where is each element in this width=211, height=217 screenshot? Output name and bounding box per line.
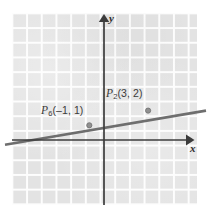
- x-axis-label: x: [190, 142, 196, 154]
- coordinate-plane-figure: y x P6(–1, 1) P2(3, 2): [0, 0, 211, 217]
- plot-overlay: [0, 0, 211, 217]
- y-axis-label: y: [109, 12, 114, 24]
- point-marker-p2: [146, 108, 151, 113]
- point-label-p1: P6(–1, 1): [41, 104, 83, 118]
- point-label-p2: P2(3, 2): [106, 87, 143, 101]
- y-axis-arrowhead: [99, 14, 109, 22]
- point-label-p2-coords: (3, 2): [117, 87, 142, 99]
- point-marker-p1: [87, 123, 92, 128]
- point-label-p1-coords: (–1, 1): [52, 104, 83, 116]
